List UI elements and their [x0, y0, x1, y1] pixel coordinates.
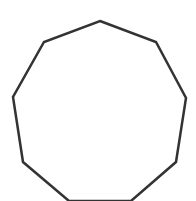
nonagon-shape — [13, 21, 186, 201]
diagram-canvas — [0, 0, 196, 201]
